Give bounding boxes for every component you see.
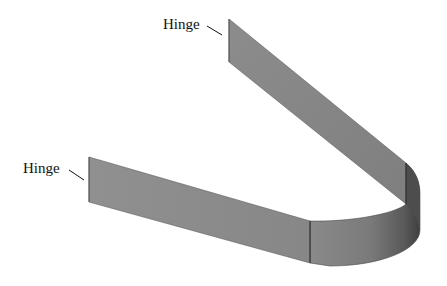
diagram-canvas — [0, 0, 447, 286]
leader-line-top — [207, 26, 222, 35]
hinge-label-top: Hinge — [163, 17, 200, 32]
hinge-label-left: Hinge — [23, 161, 60, 176]
upper-strip — [229, 19, 406, 204]
leader-line-left — [69, 170, 84, 180]
lower-strip — [89, 157, 310, 263]
u-strip-figure — [0, 0, 447, 286]
